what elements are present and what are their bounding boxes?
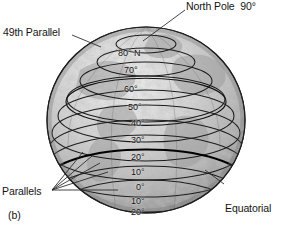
latitude-label: 10° — [131, 196, 145, 206]
label-equatorial-parallel: Equatorial parallel — [225, 180, 271, 228]
latitude-label: 30° — [131, 135, 145, 145]
globe-surface — [47, 27, 245, 228]
latitude-label: 70° — [124, 65, 138, 75]
latitude-label: 80° N — [118, 48, 141, 58]
figure-caption: (b) — [8, 210, 21, 221]
latitude-label: 60° — [124, 84, 138, 94]
label-north-pole: North Pole 90° — [186, 1, 256, 12]
globe — [47, 27, 245, 228]
latitude-label: 0° — [136, 182, 145, 192]
latitude-label: 50° — [128, 102, 142, 112]
latitude-label: 20° — [131, 152, 145, 162]
latitude-label: 40° — [131, 118, 145, 128]
latitude-label: 10° — [131, 167, 145, 177]
label-parallels: Parallels — [2, 186, 41, 197]
label-equatorial-parallel-line1: Equatorial — [225, 203, 271, 214]
label-49th-parallel: 49th Parallel — [3, 27, 60, 38]
latitude-label: 20° — [131, 207, 145, 217]
